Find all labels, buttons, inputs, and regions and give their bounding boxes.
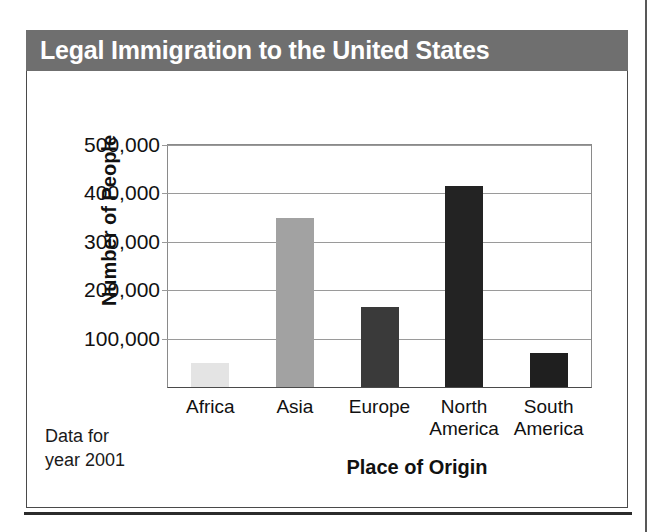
bar <box>530 353 568 387</box>
y-tick-label: 500,000 <box>84 133 160 157</box>
figure-bottom-rule <box>24 512 632 515</box>
bar <box>276 218 314 387</box>
y-tick-mark <box>162 339 168 340</box>
chart-frame: Number of People 100,000200,000300,00040… <box>26 71 628 508</box>
x-tick-label: Africa <box>186 396 235 418</box>
chart-title: Legal Immigration to the United States <box>26 36 489 65</box>
y-tick-mark <box>162 145 168 146</box>
y-tick-mark <box>162 193 168 194</box>
bar <box>445 186 483 387</box>
x-tick-label: North America <box>429 396 499 440</box>
y-tick-label: 300,000 <box>84 230 160 254</box>
gridline <box>168 290 591 291</box>
y-tick-mark <box>162 290 168 291</box>
gridline <box>168 193 591 194</box>
plot-area: 100,000200,000300,000400,000500,000Afric… <box>167 144 592 388</box>
x-tick-label: Europe <box>349 396 410 418</box>
source-note: Data for year 2001 <box>45 424 125 473</box>
gridline <box>168 145 591 146</box>
gridline <box>168 242 591 243</box>
bar <box>361 307 399 387</box>
y-tick-mark <box>162 242 168 243</box>
y-tick-label: 200,000 <box>84 278 160 302</box>
y-tick-label: 100,000 <box>84 327 160 351</box>
page-edge-rule <box>645 0 647 532</box>
x-tick-label: South America <box>514 396 584 440</box>
bar <box>191 363 229 387</box>
figure-page: Legal Immigration to the United States N… <box>0 0 650 532</box>
y-tick-label: 400,000 <box>84 181 160 205</box>
x-tick-label: Asia <box>276 396 313 418</box>
chart-title-band: Legal Immigration to the United States <box>26 30 628 71</box>
x-axis-title: Place of Origin <box>267 456 567 479</box>
